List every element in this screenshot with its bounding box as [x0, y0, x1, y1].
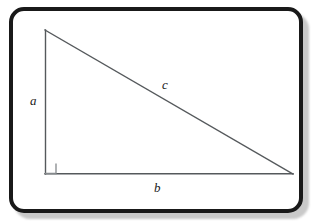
diagram-canvas: a c b: [0, 0, 318, 224]
label-c: c: [162, 78, 168, 91]
label-b: b: [154, 181, 161, 194]
label-a: a: [30, 94, 37, 107]
hypotenuse-c-line: [45, 30, 293, 174]
right-angle-square-icon: [45, 164, 56, 174]
